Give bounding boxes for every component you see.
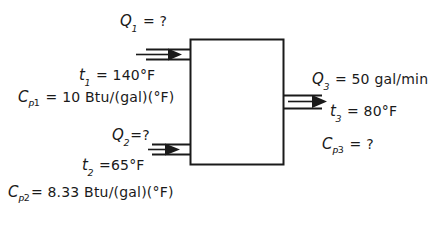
stream-3-flow-subscript: 3 — [324, 81, 330, 92]
outlet-arrow-stream-3 — [288, 95, 327, 108]
stream-3-temp-subscript: 3 — [336, 113, 342, 124]
equals-sign: = — [143, 13, 155, 29]
stream-2-flow-label: Q2=? — [112, 128, 150, 146]
stream-1-temp-value: 140°F — [113, 67, 156, 83]
stream-3-cp-subscript: 3 — [338, 144, 344, 155]
mixing-vessel-box — [191, 40, 284, 165]
stream-2-temp-subscript: 2 — [88, 167, 94, 178]
stream-2-heat-capacity-label: CP2= 8.33 Btu/(gal)(°F) — [8, 185, 174, 203]
stream-3-flow-value: 50 gal/min — [352, 71, 429, 87]
stream-2-temp-value: 65°F — [111, 157, 145, 173]
stream-1-cp-subscript: 1 — [34, 97, 40, 108]
stream-3-temp-label: t3 = 80°F — [330, 104, 397, 122]
stream-2-cp-value: 8.33 Btu/(gal)(°F) — [47, 184, 173, 200]
process-flow-diagram: Q1 = ? t1 = 140°F CP1 = 10 Btu/(gal)(°F)… — [0, 0, 443, 233]
stream-2-flow-subscript: 2 — [124, 137, 130, 148]
stream-3-heat-capacity-label: CP3 = ? — [322, 137, 374, 155]
equals-sign: = — [130, 127, 142, 143]
equals-sign: = — [335, 71, 347, 87]
stream-1-flow-label: Q1 = ? — [120, 14, 167, 32]
equals-sign: = — [347, 103, 359, 119]
equals-sign: = — [350, 136, 362, 152]
stream-1-temp-label: t1 = 140°F — [79, 68, 155, 86]
stream-1-heat-capacity-label: CP1 = 10 Btu/(gal)(°F) — [18, 90, 175, 108]
stream-1-cp-value: 10 Btu/(gal)(°F) — [62, 89, 174, 105]
equals-sign: = — [96, 67, 108, 83]
stream-2-cp-subscript: 2 — [24, 192, 30, 203]
stream-3-cp-value: ? — [366, 136, 374, 152]
stream-3-temp-value: 80°F — [364, 103, 398, 119]
stream-3-flow-label: Q3 = 50 gal/min — [312, 72, 428, 90]
equals-sign: = — [46, 89, 58, 105]
stream-3-flow-symbol: Q — [312, 70, 324, 88]
stream-1-flow-symbol: Q — [120, 12, 132, 30]
stream-2-flow-value: ? — [142, 127, 150, 143]
equals-sign: = — [31, 184, 43, 200]
equals-sign: = — [99, 157, 111, 173]
stream-2-temp-label: t2 =65°F — [82, 158, 145, 176]
stream-1-flow-value: ? — [160, 13, 168, 29]
stream-2-flow-symbol: Q — [112, 126, 124, 144]
stream-1-flow-subscript: 1 — [132, 23, 138, 34]
stream-1-temp-subscript: 1 — [85, 77, 91, 88]
